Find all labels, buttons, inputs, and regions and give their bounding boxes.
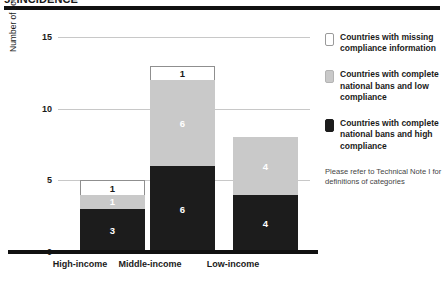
bar-high-income[interactable]: 1 1 3 [80, 180, 145, 252]
legend-item-high-compliance: Countries with complete national bans an… [325, 118, 443, 152]
y-tick-10: 10 [42, 103, 52, 113]
bar-segment-high-compliance: 6 [150, 166, 215, 252]
gridline-15 [58, 37, 310, 38]
legend-label-low-compliance: Countries with complete national bans an… [340, 69, 443, 103]
bar-segment-high-compliance: 4 [233, 195, 298, 252]
legend-label-high-compliance: Countries with complete national bans an… [340, 118, 443, 152]
bar-segment-low-compliance: 4 [233, 137, 298, 194]
legend-label-missing: Countries with missing compliance inform… [340, 32, 443, 54]
y-tick-5: 5 [47, 175, 52, 185]
y-tick-15: 15 [42, 32, 52, 42]
y-axis-label: Number of countries [8, 0, 18, 52]
bar-low-income[interactable]: 4 4 [233, 137, 298, 252]
bar-segment-missing: 1 [80, 180, 145, 194]
bar-segment-low-compliance: 6 [150, 80, 215, 166]
title-divider [4, 6, 440, 10]
bar-segment-high-compliance: 3 [80, 209, 145, 252]
bar-middle-income[interactable]: 1 6 6 [150, 66, 215, 252]
legend-swatch-white-icon [325, 33, 334, 46]
x-tick-low-income: Low-income [178, 259, 288, 269]
bar-segment-missing: 1 [150, 66, 215, 80]
legend-item-low-compliance: Countries with complete national bans an… [325, 69, 443, 103]
x-axis-line [8, 250, 318, 254]
figure-panel: 5. INCIDENCE Number of countries 15 10 5… [0, 0, 443, 289]
legend-footnote: Please refer to Technical Note I for def… [325, 167, 443, 187]
legend-item-missing: Countries with missing compliance inform… [325, 32, 443, 54]
legend-swatch-gray-icon [325, 70, 334, 83]
bar-segment-low-compliance: 1 [80, 195, 145, 209]
plot-area: 15 10 5 0 1 1 3 1 6 6 4 4 [58, 37, 310, 252]
chart-legend: Countries with missing compliance inform… [325, 32, 443, 187]
legend-swatch-black-icon [325, 119, 334, 132]
